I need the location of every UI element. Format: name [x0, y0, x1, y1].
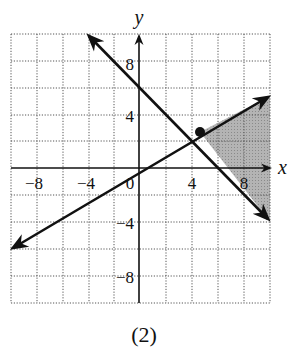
- y-tick-label: −4: [116, 214, 135, 233]
- graph: −8 −4 0 4 8 8 4 −4 −8 y x (2): [0, 0, 288, 350]
- y-axis-label: y: [133, 6, 144, 29]
- line-2: [13, 97, 268, 248]
- x-tick-label: −8: [25, 174, 43, 193]
- y-tick-labels: 8 4 −4 −8: [116, 55, 135, 287]
- y-tick-label: 4: [126, 107, 135, 126]
- x-tick-label: 4: [188, 174, 197, 193]
- intersection-point: [195, 127, 205, 137]
- y-tick-label: 8: [126, 55, 135, 74]
- figure-caption: (2): [131, 322, 157, 347]
- x-tick-label: 8: [240, 174, 249, 193]
- x-tick-label: −4: [77, 174, 96, 193]
- y-tick-label: −8: [116, 268, 134, 287]
- x-tick-label: 0: [126, 174, 135, 193]
- x-axis-label: x: [277, 156, 287, 178]
- x-tick-labels: −8 −4 0 4 8: [25, 174, 248, 193]
